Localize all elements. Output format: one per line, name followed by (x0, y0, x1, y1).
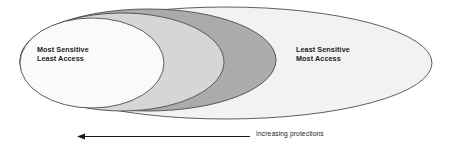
nested-ellipse-diagram: Most Sensitive Least Access Least Sensit… (0, 0, 449, 153)
least-sensitive-label: Least Sensitive Most Access (296, 45, 350, 64)
most-access-line2: Most Access (296, 54, 350, 63)
diagram-canvas (0, 0, 449, 153)
least-sensitive-line1: Least Sensitive (296, 45, 350, 54)
most-sensitive-line1: Most Sensitive (37, 45, 89, 54)
arrow-head-icon (77, 133, 85, 139)
least-access-line2: Least Access (37, 54, 89, 63)
increasing-protections-arrow (77, 133, 250, 139)
increasing-protections-caption: Increasing protections (256, 130, 324, 137)
most-sensitive-label: Most Sensitive Least Access (37, 45, 89, 64)
